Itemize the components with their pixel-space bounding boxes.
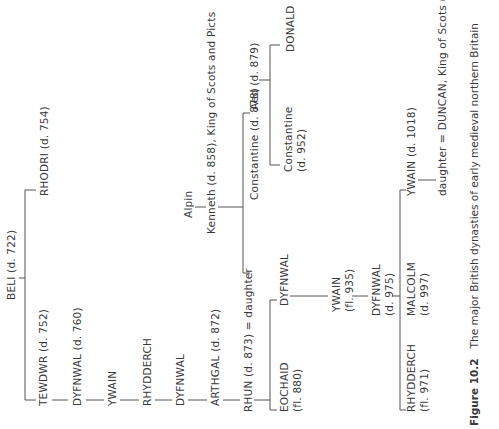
person-aed: Aed (d. 879): [248, 43, 261, 110]
person-beli: BELI (d. 722): [5, 230, 18, 300]
person-eochaid: EOCHAID (fl. 880): [278, 362, 304, 412]
person-ywain: YWAIN: [106, 371, 119, 406]
person-rhydderch-971: RHYDDERCH (fl. 971): [405, 344, 431, 412]
person-dyfnwal: DYFNWAL: [174, 354, 187, 406]
person-rhun: RHUN (d. 873) = daughter: [242, 268, 255, 412]
person-constantine-952: Constantine (d. 952): [282, 107, 308, 172]
person-dyfnwal-son: DYFNWAL: [278, 254, 291, 306]
person-dyfnwal-760: DYFNWAL (d. 760): [71, 307, 84, 406]
person-ywain-1018: YWAIN (d. 1018): [405, 107, 418, 196]
person-malcolm: MALCOLM (d. 997): [405, 262, 431, 316]
person-donald: DONALD: [284, 5, 297, 52]
figure-number: Figure 10.2: [468, 358, 480, 426]
person-tewdwr: TEWDWR (d. 752): [37, 309, 50, 406]
figure-caption: Figure 10.2The major British dynasties o…: [468, 23, 481, 426]
person-daughter-duncan: daughter = DUNCAN, King of Scots (d. 104…: [436, 0, 449, 196]
person-rhydderch: RHYDDERCH: [141, 338, 154, 406]
person-ywain-935: YWAIN (fl. 935): [330, 269, 356, 312]
genealogy-diagram: BELI (d. 722) RHODRI (d. 754) TEWDWR (d.…: [0, 0, 499, 429]
person-arthgal: ARTHGAL (d. 872): [209, 309, 222, 406]
person-rhodri: RHODRI (d. 754): [38, 106, 51, 196]
person-kenneth: Kenneth (d. 858), King of Scots and Pict…: [205, 12, 218, 234]
figure-caption-text: The major British dynasties of early med…: [468, 23, 480, 348]
person-alpin: Alpin: [182, 191, 195, 218]
person-dyfnwal-975: DYFNWAL (d. 975): [370, 264, 396, 316]
